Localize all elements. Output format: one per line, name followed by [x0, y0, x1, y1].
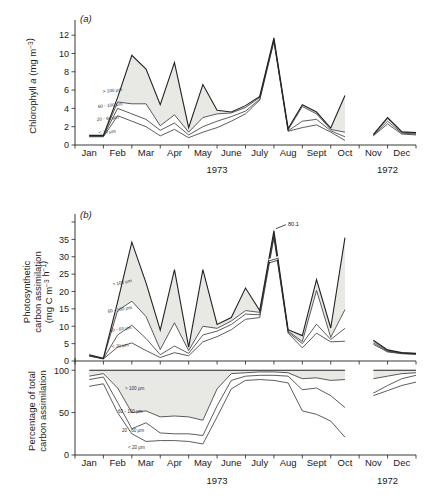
- inline-label-b-lt20: < 20 μm: [112, 343, 129, 349]
- year-label-left-a: 1973: [207, 164, 228, 175]
- y-ticklabel-b-30: 30: [59, 252, 69, 262]
- axis-title-chlorophyll: Chlorophyll a (mg m−3): [24, 38, 38, 134]
- month-label-c-nov: Nov: [365, 457, 382, 468]
- month-label-c-mar: Mar: [138, 457, 154, 468]
- y-ticklabel-a-2: 2: [64, 122, 69, 132]
- inline-label-c-c20_60: 20 - 60 μm: [122, 428, 144, 433]
- month-label-c-july: July: [251, 457, 268, 468]
- y-ticklabel-b-35: 35: [59, 235, 69, 245]
- inline-label-c-lt20: < 20 μm: [128, 445, 145, 450]
- month-label-a-dec: Dec: [393, 147, 410, 158]
- axis-title-percentage-line-1: carbon assimilation: [37, 370, 48, 451]
- month-labels-c: JanFebMarAprMayJuneJulyAugSeptOctNovDec1…: [82, 457, 411, 486]
- inline-label-a-c60_100: 60 - 100 μm: [98, 101, 123, 109]
- month-label-a-nov: Nov: [365, 147, 382, 158]
- year-label-right-a: 1972: [377, 164, 398, 175]
- y-ticklabel-b-20: 20: [59, 287, 69, 297]
- month-label-a-aug: Aug: [280, 147, 297, 158]
- month-label-a-june: June: [221, 147, 242, 158]
- series-line-c-20-60-m-1: [373, 375, 416, 393]
- y-ticklabel-a-10: 10: [59, 49, 69, 59]
- month-label-a-mar: Mar: [138, 147, 154, 158]
- y-ticklabel-c-100: 100: [54, 366, 69, 376]
- axis-title-chlorophyll-line-0: Chlorophyll a (mg m−3): [24, 38, 38, 134]
- year-label-left-c: 1973: [207, 475, 228, 486]
- month-label-c-jan: Jan: [82, 457, 97, 468]
- peak-annotation-label: 80.1: [288, 221, 299, 227]
- month-label-a-july: July: [251, 147, 268, 158]
- y-ticklabel-a-4: 4: [64, 104, 69, 114]
- month-label-a-jan: Jan: [82, 147, 97, 158]
- series-line-c--20-m-1: [373, 382, 416, 396]
- axis-title-chlorophyll-text: Chlorophyll a (mg m−3): [24, 38, 38, 134]
- month-label-a-oct: Oct: [338, 147, 353, 158]
- panel-a-letter: (a): [80, 13, 92, 24]
- axis-title-photosynthetic-line-0: Photosynthetic: [21, 261, 32, 324]
- month-label-a-may: May: [194, 147, 212, 158]
- shaded-band-b-0: [89, 231, 345, 359]
- y-ticklabel-c-0: 0: [64, 450, 69, 460]
- peak-leader-line: [276, 225, 286, 229]
- month-label-a-apr: Apr: [167, 147, 182, 158]
- axis-title-percentage-line-0: Percentage of total: [26, 371, 37, 451]
- month-label-c-sept: Sept: [307, 457, 327, 468]
- inline-label-a-lt20: < 20 μm: [99, 129, 116, 135]
- y-ticklabel-a-0: 0: [64, 140, 69, 150]
- month-label-a-sept: Sept: [307, 147, 327, 158]
- inline-label-c-c60_100: 60 - 100 μm: [118, 409, 143, 414]
- month-label-c-aug: Aug: [280, 457, 297, 468]
- inline-label-a-c20_60: 20 - 60 μm: [97, 115, 120, 122]
- month-label-c-apr: Apr: [167, 457, 182, 468]
- series-line-a--100-m-1: [373, 118, 416, 135]
- month-label-a-feb: Feb: [109, 147, 125, 158]
- month-label-c-may: May: [194, 457, 212, 468]
- y-ticklabel-a-6: 6: [64, 85, 69, 95]
- month-label-c-dec: Dec: [393, 457, 410, 468]
- axis-title-percentage: Percentage of totalcarbon assimilation: [26, 370, 48, 451]
- month-label-c-june: June: [221, 457, 242, 468]
- panel-letters: (a)(b): [80, 13, 92, 220]
- panel-b-letter: (b): [80, 209, 92, 220]
- series-line-a-20-60-m-1: [373, 121, 416, 135]
- month-label-c-oct: Oct: [338, 457, 353, 468]
- inline-label-c-gt100: > 100 μm: [125, 386, 145, 391]
- figure-svg: 02468101205101520253035050100JanFebMarAp…: [0, 0, 433, 499]
- panel-c: 050100: [54, 358, 416, 460]
- month-label-c-feb: Feb: [109, 457, 125, 468]
- y-ticklabel-b-5: 5: [64, 339, 69, 349]
- axis-title-percentage-text: Percentage of totalcarbon assimilation: [26, 370, 48, 451]
- y-ticklabel-b-15: 15: [59, 304, 69, 314]
- y-ticklabel-a-12: 12: [59, 30, 69, 40]
- figure-container: 02468101205101520253035050100JanFebMarAp…: [0, 0, 433, 499]
- y-ticklabel-b-10: 10: [59, 322, 69, 332]
- axis-title-photosynthetic: Photosyntheticcarbon assimilation(mg C m…: [21, 251, 54, 332]
- month-labels-a: JanFebMarAprMayJuneJulyAugSeptOctNovDec1…: [82, 147, 411, 175]
- y-ticklabel-b-25: 25: [59, 269, 69, 279]
- axis-title-photosynthetic-text: Photosyntheticcarbon assimilation(mg C m…: [21, 251, 54, 332]
- y-ticklabel-a-8: 8: [64, 67, 69, 77]
- y-ticklabel-c-50: 50: [59, 408, 69, 418]
- inline-label-b-c60_100: 60 - 100 μm: [107, 305, 132, 314]
- year-label-right-c: 1972: [377, 475, 398, 486]
